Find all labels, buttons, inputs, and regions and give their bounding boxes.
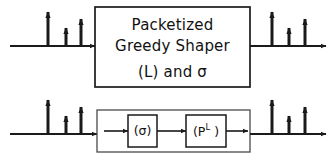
figure-canvas: Packetized Greedy Shaper (L) and σ (σ) (… xyxy=(0,0,333,160)
sigma-block-label: (σ) xyxy=(134,123,152,138)
block-label-line1: Packetized xyxy=(132,16,214,34)
diagram-svg: Packetized Greedy Shaper (L) and σ (σ) (… xyxy=(0,0,333,160)
bottom-output-signal xyxy=(250,100,326,134)
block-label-line3: (L) and σ xyxy=(138,63,207,81)
top-output-signal xyxy=(250,12,326,46)
packetizer-label-base: (P xyxy=(193,123,206,138)
top-input-signal xyxy=(10,12,95,46)
block-label-line2: Greedy Shaper xyxy=(115,37,230,55)
packetizer-label-close: ) xyxy=(210,123,219,138)
bottom-input-signal xyxy=(10,100,97,134)
